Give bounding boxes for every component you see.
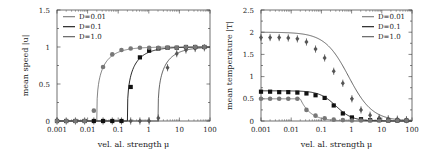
y-tick-label: 1 (46, 44, 50, 52)
y-tick-label: 1.5 (39, 7, 50, 15)
data-markers (259, 34, 409, 123)
mean-temperature-chart: 0.0010.010.111010000.511.522.5vel. al. s… (225, 7, 419, 150)
y-tick-label: 1.5 (243, 51, 254, 59)
mean-speed-chart: 0.0010.010.111010000.511.5vel. al. stren… (21, 7, 217, 150)
diamond-marker (332, 69, 336, 74)
diamond-marker (359, 107, 363, 112)
diamond-marker (350, 96, 354, 101)
circle-marker (64, 119, 69, 124)
diamond-marker (129, 118, 133, 123)
diamond-marker (368, 113, 372, 118)
circle-marker (395, 118, 400, 123)
square-marker (313, 93, 317, 97)
circle-marker (184, 45, 189, 50)
legend-label: D=0.1 (79, 23, 102, 31)
legend-label: D=0.01 (79, 13, 106, 21)
x-tick-label: 0.1 (316, 126, 327, 134)
data-markers (55, 44, 207, 124)
fit-curve-D=1.0 (158, 47, 210, 121)
circle-marker (304, 108, 309, 113)
square-marker (259, 90, 263, 94)
circle-marker (73, 119, 78, 124)
x-axis-label: vel. al. strength μ (97, 140, 170, 149)
circle-marker (156, 45, 161, 50)
circle-marker (138, 45, 143, 50)
fit-curve-D=0.1 (261, 91, 412, 121)
legend-label: D=1.0 (378, 33, 401, 41)
x-tick-label: 10 (377, 126, 386, 134)
diamond-marker (268, 35, 272, 40)
circle-marker (286, 97, 291, 102)
circle-marker (174, 45, 179, 50)
circle-marker (313, 113, 318, 118)
circle-marker (165, 45, 170, 50)
circle-marker (295, 97, 300, 102)
diamond-marker (175, 51, 179, 56)
fit-curves (261, 32, 412, 121)
circle-marker (119, 48, 124, 53)
legend-label: D=0.1 (378, 23, 401, 31)
circle-marker (268, 97, 273, 102)
fit-curve-D=1.0 (261, 32, 412, 120)
square-marker (119, 119, 123, 123)
square-marker (92, 119, 96, 123)
y-tick-label: 0.5 (243, 95, 254, 103)
diamond-marker (323, 55, 327, 60)
diamond-marker (147, 118, 151, 123)
diamond-marker (156, 115, 160, 120)
y-axis-label: mean speed |u| (21, 35, 30, 97)
square-marker (138, 55, 142, 59)
circle-marker (377, 118, 382, 123)
circle-marker (322, 116, 327, 121)
circle-marker (147, 45, 152, 50)
square-marker (277, 90, 281, 94)
circle-marker (368, 118, 373, 123)
circle-marker (350, 118, 355, 123)
x-tick-label: 0.001 (47, 126, 67, 134)
y-tick-label: 0.5 (39, 81, 50, 89)
circle-marker (101, 65, 106, 70)
circle-marker (92, 108, 97, 113)
square-marker (101, 119, 105, 123)
y-tick-label: 2.5 (243, 7, 254, 15)
square-marker (129, 85, 133, 89)
square-marker (268, 90, 272, 94)
legend: D=0.01D=0.1D=1.0 (63, 13, 106, 41)
square-marker (110, 119, 114, 123)
circle-marker (110, 52, 115, 57)
x-tick-label: 1 (147, 126, 151, 134)
circle-marker (82, 119, 87, 124)
y-tick-label: 0 (250, 118, 254, 126)
diamond-marker (286, 35, 290, 40)
figure: 0.0010.010.111010000.511.5vel. al. stren… (0, 0, 440, 159)
x-tick-label: 0.01 (80, 126, 96, 134)
circle-marker (202, 45, 207, 50)
diamond-marker (295, 36, 299, 41)
y-tick-label: 2 (250, 29, 254, 37)
circle-marker (359, 118, 364, 123)
y-axis-label: mean temperature |T| (225, 21, 234, 110)
x-tick-label: 100 (203, 126, 216, 134)
x-tick-label: 0.01 (283, 126, 299, 134)
circle-marker (277, 97, 282, 102)
circle-marker (128, 46, 133, 51)
circle-marker (193, 45, 198, 50)
circle-marker (341, 118, 346, 123)
diamond-marker (138, 118, 142, 123)
x-tick-label: 0.001 (251, 126, 271, 134)
square-marker (286, 90, 290, 94)
diamond-marker (314, 46, 318, 51)
circle-marker (386, 118, 391, 123)
circle-marker (331, 117, 336, 122)
x-tick-label: 1 (349, 126, 353, 134)
circle-marker (259, 97, 264, 102)
diamond-marker (341, 81, 345, 86)
fit-curve-D=0.01 (97, 47, 210, 121)
diamond-marker (277, 35, 281, 40)
square-marker (304, 91, 308, 95)
diamond-marker (166, 65, 170, 70)
y-tick-label: 0 (46, 118, 50, 126)
circle-marker (55, 119, 60, 124)
diamond-marker (304, 39, 308, 44)
x-tick-label: 100 (405, 126, 418, 134)
